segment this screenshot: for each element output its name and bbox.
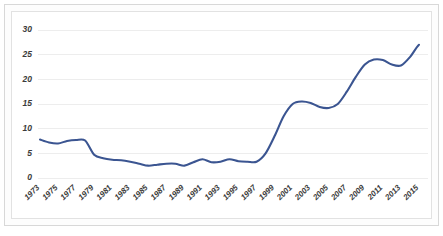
data-series-group (40, 45, 419, 166)
y-axis-tick-label: 10 (23, 123, 33, 133)
x-axis-tick-label: 1979 (77, 183, 96, 202)
line-chart-canvas: 051015202530 197319751977197919811983198… (0, 0, 443, 236)
x-axis-tick-label: 1997 (239, 183, 258, 202)
x-axis-tick-label: 1973 (22, 183, 41, 202)
y-axis-tick-label: 25 (22, 49, 33, 59)
x-axis-tick-label: 1995 (221, 183, 240, 202)
x-axis-tick-label: 1983 (113, 183, 132, 202)
x-axis-tick-label: 1999 (257, 183, 276, 202)
x-axis-tick-label: 2015 (401, 183, 421, 203)
chart-figure: 051015202530 197319751977197919811983198… (0, 0, 443, 236)
x-axis-tick-label: 1985 (131, 183, 150, 202)
y-axis-tick-label: 20 (22, 74, 33, 84)
x-axis-tick-label: 1987 (149, 183, 168, 202)
x-axis-tick-label: 2001 (274, 183, 294, 203)
x-axis-tick-labels: 1973197519771979198119831985198719891991… (22, 183, 420, 203)
y-axis-tick-label: 30 (23, 24, 33, 34)
x-axis-tick-label: 2005 (311, 183, 331, 203)
x-axis-tick-label: 1977 (59, 183, 78, 202)
x-axis-tick-label: 2009 (347, 183, 367, 203)
data-series-line (40, 45, 419, 166)
y-axis-tick-label: 15 (23, 98, 33, 108)
x-axis-tick-label: 2013 (383, 183, 403, 203)
x-axis-tick-label: 1981 (95, 183, 114, 202)
y-axis-tick-labels: 051015202530 (22, 24, 33, 182)
y-axis-tick-label: 5 (27, 148, 32, 158)
x-axis-tick-label: 2011 (365, 183, 385, 203)
x-axis-tick-label: 1989 (167, 183, 186, 202)
x-axis-tick-label: 2003 (292, 183, 312, 203)
x-axis-tick-label: 1975 (41, 183, 60, 202)
x-axis-tick-label: 1993 (203, 183, 222, 202)
y-axis-tick-label: 0 (27, 172, 32, 182)
x-axis-tick-label: 2007 (329, 183, 349, 203)
x-axis-tick-label: 1991 (185, 183, 204, 202)
